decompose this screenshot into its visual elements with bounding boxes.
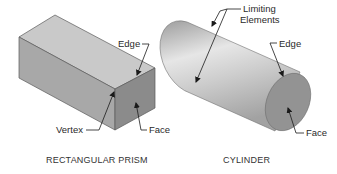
prism-edge-label: Edge <box>118 38 140 49</box>
cylinder-caption: CYLINDER <box>223 155 270 165</box>
cylinder: Limiting Elements Edge Face CYLINDER <box>160 3 327 165</box>
limiting-elements-label-line1: Limiting <box>243 3 276 14</box>
prism-vertex-label: Vertex <box>56 124 83 135</box>
cylinder-edge-label: Edge <box>279 38 301 49</box>
limiting-elements-leader-top <box>212 9 241 26</box>
cylinder-face-label: Face <box>306 127 327 138</box>
prism-face-label: Face <box>149 124 170 135</box>
geometry-diagram: Edge Vertex Face RECTANGULAR PRISM Limit… <box>0 0 337 174</box>
prism-caption: RECTANGULAR PRISM <box>46 155 148 165</box>
limiting-elements-label-line2: Elements <box>240 14 280 25</box>
rectangular-prism: Edge Vertex Face RECTANGULAR PRISM <box>19 15 170 165</box>
